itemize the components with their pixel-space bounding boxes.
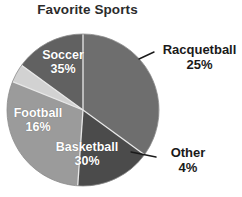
pie-label-basketball-percent: 30% [38, 154, 136, 168]
pie-label-football-percent: 16% [0, 120, 76, 134]
pie-label-racquetball: Racquetball 25% [157, 42, 242, 72]
pie-label-football: Football 16% [0, 106, 76, 134]
pie-label-football-name: Football [0, 106, 76, 120]
page-edge-artifact [0, 193, 6, 197]
pie-label-soccer-percent: 35% [20, 62, 106, 76]
leader-line-racquetball [139, 52, 154, 59]
pie-label-racquetball-percent: 25% [157, 57, 242, 72]
pie-label-other: Other 4% [159, 145, 217, 175]
pie-label-basketball-name: Basketball [38, 140, 136, 154]
pie-label-racquetball-name: Racquetball [157, 42, 242, 57]
pie-label-soccer-name: Soccer [20, 48, 106, 62]
pie-label-soccer: Soccer 35% [20, 48, 106, 76]
pie-chart: Favorite Sports Soccer 35% Racquetball 2… [0, 0, 242, 197]
pie-label-other-name: Other [159, 145, 217, 160]
pie-label-basketball: Basketball 30% [38, 140, 136, 168]
pie-label-other-percent: 4% [159, 160, 217, 175]
